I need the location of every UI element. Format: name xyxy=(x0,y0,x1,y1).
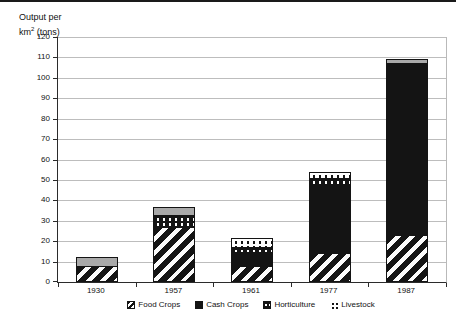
bar-region-1977 xyxy=(291,37,369,282)
legend-item-livestock: Livestock xyxy=(330,300,374,309)
y-axis-title-line1: Output per xyxy=(19,11,62,23)
y-tick-mark xyxy=(53,241,57,242)
legend-swatch-livestock-icon xyxy=(330,301,338,309)
bar-region-1957 xyxy=(136,37,214,282)
y-tick-label: 10 xyxy=(0,257,50,266)
y-tick-mark xyxy=(53,281,57,282)
legend-item-food-crops: Food Crops xyxy=(127,300,180,309)
y-tick-label: 60 xyxy=(0,155,50,164)
bars-container xyxy=(58,37,446,282)
legend-label: Livestock xyxy=(341,300,374,309)
bar-segment-food-crops xyxy=(231,266,273,282)
top-border-line xyxy=(0,0,456,2)
y-tick-label: 90 xyxy=(0,93,50,102)
y-tick-label: 20 xyxy=(0,236,50,245)
bar-segment-food-crops xyxy=(386,235,428,282)
y-tick-mark xyxy=(53,57,57,58)
bar-1977 xyxy=(309,172,351,282)
legend-swatch-horticulture-icon xyxy=(263,301,271,309)
y-tick-mark xyxy=(53,139,57,140)
y-tick-mark xyxy=(53,200,57,201)
y-tick-label: 80 xyxy=(0,114,50,123)
legend-swatch-food-crops-icon xyxy=(127,301,135,309)
bar-segment-cash-crops xyxy=(231,252,273,266)
y-axis-tick-labels: 0102030405060708090100110120 xyxy=(0,37,50,282)
legend-item-cash-crops: Cash Crops xyxy=(195,300,248,309)
x-axis-labels: 19301957196119771987 xyxy=(57,286,445,295)
bar-segment-food-crops xyxy=(153,227,195,282)
legend-label: Cash Crops xyxy=(206,300,248,309)
y-tick-label: 110 xyxy=(0,52,50,61)
bar-segment-cash-crops xyxy=(386,63,428,237)
y-tick-label: 0 xyxy=(0,277,50,286)
y-tick-mark xyxy=(53,160,57,161)
y-tick-label: 50 xyxy=(0,175,50,184)
legend-label: Food Crops xyxy=(138,300,180,309)
x-axis-label-1987: 1987 xyxy=(367,286,445,295)
bar-segment-horticulture xyxy=(153,215,195,228)
y-tick-label: 40 xyxy=(0,195,50,204)
legend-swatch-cash-crops-icon xyxy=(195,301,203,309)
bar-region-1930 xyxy=(58,37,136,282)
chart-canvas: Output per km2 (tons) 010203040506070809… xyxy=(0,0,456,326)
legend-item-horticulture: Horticulture xyxy=(263,300,315,309)
y-tick-mark xyxy=(53,78,57,79)
y-tick-mark xyxy=(53,262,57,263)
bar-1987 xyxy=(386,59,428,282)
y-tick-mark xyxy=(53,180,57,181)
y-tick-label: 70 xyxy=(0,134,50,143)
bar-segment-food-crops xyxy=(309,253,351,282)
bar-region-1987 xyxy=(368,37,446,282)
x-axis-label-1930: 1930 xyxy=(57,286,135,295)
bar-segment-cash-crops xyxy=(309,185,351,254)
x-axis-label-1977: 1977 xyxy=(290,286,368,295)
y-tick-mark xyxy=(53,37,57,38)
bar-region-1961 xyxy=(213,37,291,282)
bar-segment-food-crops xyxy=(76,266,118,282)
y-tick-mark xyxy=(53,98,57,99)
bar-1957 xyxy=(153,207,195,282)
y-tick-label: 30 xyxy=(0,216,50,225)
y-tick-mark xyxy=(53,119,57,120)
y-tick-label: 120 xyxy=(0,32,50,41)
bar-1930 xyxy=(76,257,118,282)
legend: Food CropsCash CropsHorticultureLivestoc… xyxy=(57,300,445,309)
bar-1961 xyxy=(231,238,273,282)
x-axis-label-1957: 1957 xyxy=(135,286,213,295)
y-tick-label: 100 xyxy=(0,73,50,82)
y-tick-mark xyxy=(53,221,57,222)
x-axis-label-1961: 1961 xyxy=(212,286,290,295)
x-tick-mark xyxy=(446,283,447,287)
legend-label: Horticulture xyxy=(274,300,315,309)
plot-area xyxy=(57,37,447,283)
